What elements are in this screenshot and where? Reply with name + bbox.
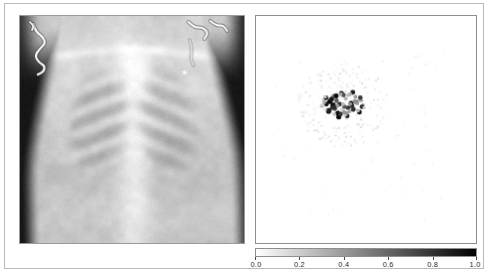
chest-radiograph-image — [20, 16, 244, 243]
figure-canvas: 0.00.20.40.60.81.0 — [0, 0, 493, 277]
colorbar-tick-axis: 0.00.20.40.60.81.0 — [255, 257, 477, 271]
chest-radiograph-panel — [19, 15, 245, 244]
figure-outer-frame: 0.00.20.40.60.81.0 — [4, 3, 484, 269]
colorbar-tick-label: 0.0 — [251, 260, 262, 269]
colorbar-tick-label: 0.6 — [383, 260, 394, 269]
colorbar-gradient-strip — [255, 248, 477, 257]
colorbar: 0.00.20.40.60.81.0 — [255, 248, 477, 271]
colorbar-tick-label: 0.2 — [294, 260, 305, 269]
attention-scatter-plot — [256, 16, 476, 243]
attention-map-panel — [255, 15, 477, 244]
colorbar-tick-label: 0.4 — [338, 260, 349, 269]
colorbar-tick-label: 1.0 — [470, 260, 481, 269]
colorbar-tick-label: 0.8 — [427, 260, 438, 269]
